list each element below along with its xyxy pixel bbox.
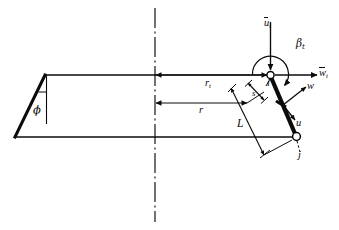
hub-body-outline — [15, 75, 297, 137]
label-u-component-symbol: u — [296, 117, 301, 128]
label-phi-symbol: ϕ — [33, 103, 41, 117]
label-w-tip-subscript: t — [326, 72, 328, 80]
label-beta-tip: βt — [296, 38, 305, 50]
blade-geometry-diagram: ut βt wt rt r s L i j w u ϕ — [0, 0, 339, 230]
label-node-j: j — [298, 150, 301, 161]
label-r: r — [199, 105, 203, 116]
dimension-r — [156, 92, 264, 103]
label-node-i-symbol: i — [267, 77, 270, 88]
label-r-symbol: r — [199, 104, 203, 115]
label-r-tip-subscript: t — [209, 82, 211, 90]
joint-node-j — [293, 133, 301, 141]
label-s-symbol: s — [252, 88, 256, 98]
label-w-tip-symbol: w — [319, 67, 326, 79]
label-u-tip-symbol: u — [264, 17, 269, 29]
label-u-tip-subscript: t — [269, 22, 271, 30]
label-r-tip: rt — [205, 78, 211, 90]
label-w-component: w — [307, 81, 314, 92]
diagram-canvas — [0, 0, 339, 230]
label-u-tip: ut — [264, 17, 271, 30]
label-beta-tip-subscript: t — [302, 42, 305, 51]
w-component-vector-arrow — [283, 87, 306, 105]
label-w-tip: wt — [319, 67, 328, 80]
label-s: s — [252, 89, 256, 98]
dimension-s — [245, 80, 268, 104]
label-L: L — [237, 118, 243, 130]
label-node-j-symbol: j — [298, 149, 301, 160]
label-node-i: i — [267, 78, 270, 89]
label-phi: ϕ — [33, 105, 41, 117]
label-w-component-symbol: w — [307, 80, 314, 91]
label-L-symbol: L — [237, 117, 243, 129]
label-u-component: u — [296, 118, 301, 129]
